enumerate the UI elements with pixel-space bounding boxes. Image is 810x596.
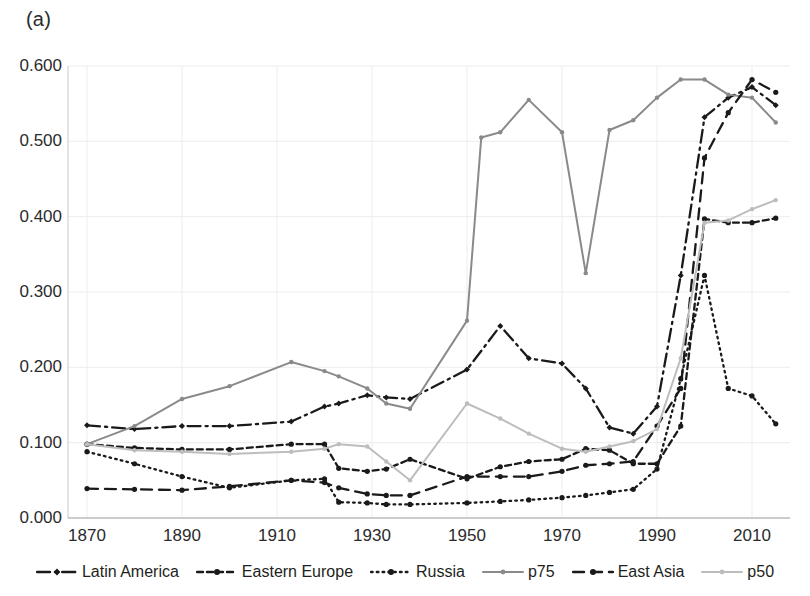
legend-label: Russia bbox=[416, 563, 465, 581]
legend-label: East Asia bbox=[618, 563, 685, 581]
legend-label: Latin America bbox=[82, 563, 179, 581]
series-p75 bbox=[85, 77, 778, 446]
plot-area bbox=[0, 0, 810, 596]
legend-label: Eastern Europe bbox=[242, 563, 353, 581]
legend-swatch-icon bbox=[196, 565, 238, 579]
series-eastern-europe bbox=[84, 216, 778, 482]
legend-swatch-icon bbox=[370, 565, 412, 579]
chart-figure: (a) 0.0000.1000.2000.3000.4000.5000.600 … bbox=[0, 0, 810, 596]
series-p50 bbox=[85, 198, 778, 483]
legend-swatch-icon bbox=[701, 565, 743, 579]
legend-swatch-icon bbox=[482, 565, 524, 579]
legend-item-latin-america[interactable]: Latin America bbox=[36, 563, 179, 581]
legend-item-eastern-europe[interactable]: Eastern Europe bbox=[196, 563, 353, 581]
legend-label: p75 bbox=[528, 563, 555, 581]
legend-swatch-icon bbox=[36, 565, 78, 579]
chart-legend: Latin AmericaEastern EuropeRussiap75East… bbox=[0, 556, 810, 588]
legend-swatch-icon bbox=[572, 565, 614, 579]
legend-item-p75[interactable]: p75 bbox=[482, 563, 555, 581]
legend-item-p50[interactable]: p50 bbox=[701, 563, 774, 581]
legend-label: p50 bbox=[747, 563, 774, 581]
legend-item-russia[interactable]: Russia bbox=[370, 563, 465, 581]
legend-item-east-asia[interactable]: East Asia bbox=[572, 563, 685, 581]
series-latin-america bbox=[84, 84, 779, 437]
